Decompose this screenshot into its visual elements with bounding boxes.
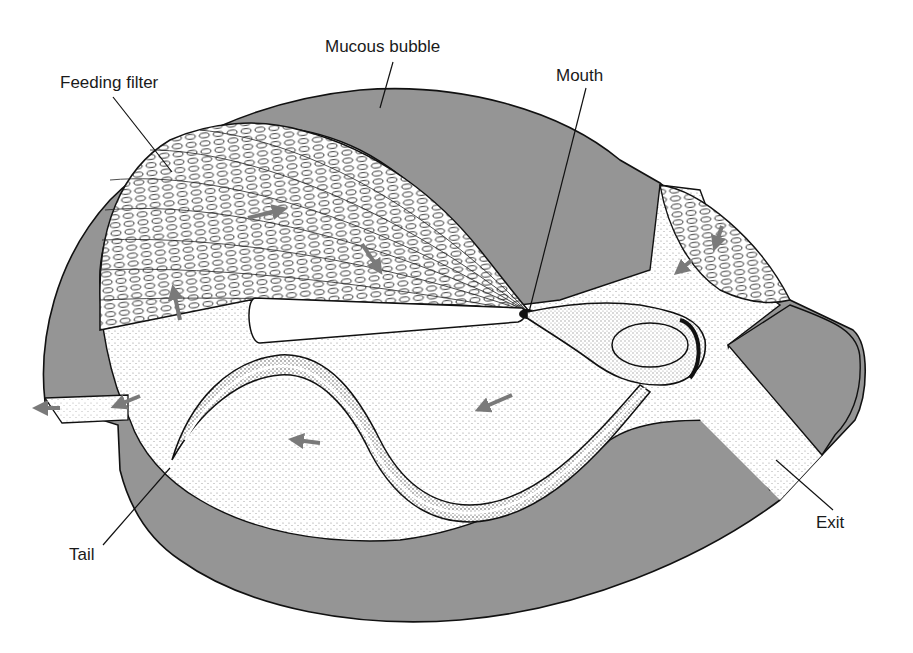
label-mucous-bubble: Mucous bubble [325, 38, 440, 55]
larvacean-diagram: Mucous bubble Feeding filter Mouth Tail … [0, 0, 913, 653]
label-mouth: Mouth [556, 67, 603, 84]
leader-feeding-filter [113, 97, 172, 172]
label-exit: Exit [816, 514, 844, 531]
label-tail: Tail [69, 546, 95, 563]
label-feeding-filter: Feeding filter [60, 74, 158, 91]
diagram-canvas [0, 0, 913, 653]
